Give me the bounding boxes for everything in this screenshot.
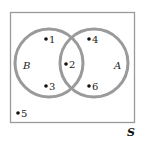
point-dot bbox=[87, 84, 91, 88]
point-dot bbox=[87, 37, 91, 41]
set-a-label: A bbox=[113, 60, 121, 71]
point-dot bbox=[64, 62, 68, 66]
point-dot bbox=[16, 111, 20, 115]
point-dot bbox=[44, 84, 48, 88]
point-6: 6 bbox=[87, 81, 98, 92]
point-3: 3 bbox=[44, 81, 55, 92]
point-label: 3 bbox=[49, 81, 55, 92]
set-b-label: B bbox=[22, 60, 30, 71]
point-label: 4 bbox=[92, 34, 98, 45]
point-label: 1 bbox=[49, 34, 55, 45]
point-dot bbox=[44, 37, 48, 41]
venn-diagram: B A 1 2 3 4 5 6 S bbox=[0, 0, 145, 145]
point-2: 2 bbox=[64, 59, 75, 70]
point-4: 4 bbox=[87, 34, 98, 45]
universe-label: S bbox=[127, 126, 135, 139]
point-label: 2 bbox=[69, 59, 75, 70]
point-5: 5 bbox=[16, 108, 27, 119]
point-label: 5 bbox=[21, 108, 27, 119]
point-1: 1 bbox=[44, 34, 55, 45]
point-label: 6 bbox=[92, 81, 98, 92]
